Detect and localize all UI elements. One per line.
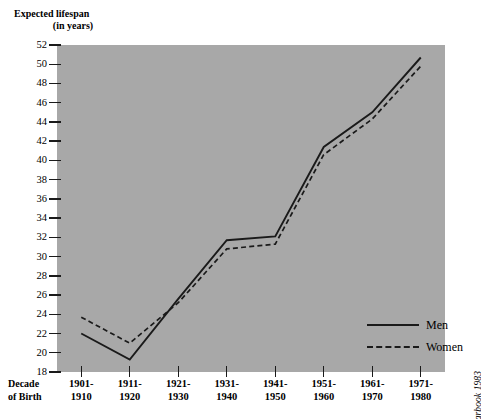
legend-item-men: Men (367, 317, 463, 339)
legend-label-women: Women (419, 340, 463, 355)
y-tick-mark (49, 352, 61, 353)
y-tick-mark (49, 371, 61, 372)
y-tick-mark (49, 294, 61, 295)
y-tick-mark (49, 160, 61, 161)
y-tick-mark (49, 198, 61, 199)
y-tick-label: 44 (21, 117, 47, 127)
y-tick-label: 20 (21, 348, 47, 358)
y-tick-mark (49, 314, 61, 315)
legend: Men Women (367, 317, 463, 361)
x-tick-label-line: 1971- (386, 378, 456, 391)
y-tick-label: 52 (21, 40, 47, 50)
y-axis-title-line1: Expected lifespan (14, 8, 89, 19)
lifespan-line-chart: Expected lifespan (in years) Men Women 5… (0, 0, 481, 419)
legend-item-women: Women (367, 339, 463, 361)
x-tick-mark (81, 366, 82, 377)
y-tick-mark (49, 102, 61, 103)
y-tick-mark (49, 64, 61, 65)
legend-label-men: Men (419, 318, 448, 333)
y-tick-label: 34 (21, 213, 47, 223)
x-tick-label: 1971-1980 (386, 378, 456, 403)
y-tick-mark (49, 179, 61, 180)
y-axis-title-line2: (in years) (14, 20, 154, 32)
y-tick-label: 30 (21, 252, 47, 262)
x-tick-mark (129, 366, 130, 377)
y-tick-label: 50 (21, 59, 47, 69)
y-tick-mark (49, 121, 61, 122)
y-tick-label: 40 (21, 155, 47, 165)
x-axis-title-line2: of Birth (8, 391, 58, 404)
y-tick-mark (49, 44, 61, 45)
series-line-men (81, 58, 421, 360)
y-tick-mark (49, 83, 61, 84)
x-tick-mark (323, 366, 324, 377)
y-tick-mark (49, 140, 61, 141)
x-tick-mark (420, 366, 421, 377)
y-tick-label: 42 (21, 136, 47, 146)
series-line-women (81, 66, 421, 343)
x-tick-mark (226, 366, 227, 377)
y-tick-label: 38 (21, 175, 47, 185)
y-tick-mark (49, 275, 61, 276)
y-tick-label: 26 (21, 290, 47, 300)
x-tick-mark (178, 366, 179, 377)
y-tick-mark (49, 237, 61, 238)
legend-swatch-women-icon (367, 342, 419, 352)
y-tick-label: 48 (21, 78, 47, 88)
x-axis-title: Decade of Birth (8, 378, 58, 403)
y-tick-label: 18 (21, 367, 47, 377)
x-tick-mark (372, 366, 373, 377)
y-tick-label: 24 (21, 309, 47, 319)
x-tick-label-line: 1980 (386, 391, 456, 404)
y-tick-label: 32 (21, 232, 47, 242)
plot-area: Men Women (57, 45, 445, 372)
y-tick-label: 36 (21, 194, 47, 204)
legend-swatch-men-icon (367, 320, 419, 330)
y-tick-mark (49, 217, 61, 218)
x-tick-mark (275, 366, 276, 377)
y-tick-label: 46 (21, 98, 47, 108)
y-tick-mark (49, 256, 61, 257)
source-note: Source: Statesman's Yearbook 1983 (473, 371, 481, 419)
y-tick-label: 22 (21, 329, 47, 339)
y-axis-title: Expected lifespan (in years) (14, 8, 154, 32)
y-tick-mark (49, 333, 61, 334)
x-axis-title-line1: Decade (8, 378, 58, 391)
y-tick-label: 28 (21, 271, 47, 281)
